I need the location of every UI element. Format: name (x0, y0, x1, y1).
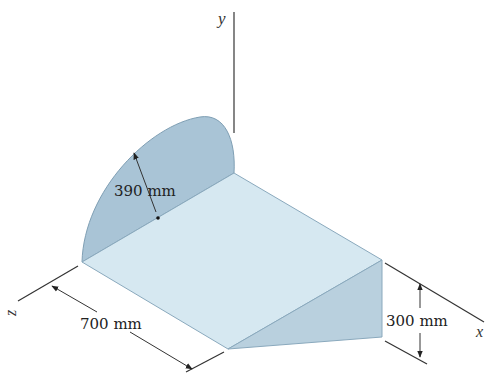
length-arrow-upper (52, 286, 97, 312)
height-label: 300 mm (386, 312, 448, 330)
radius-label: 390 mm (114, 182, 176, 200)
length-arrow-lower (130, 332, 192, 369)
center-point (156, 216, 160, 220)
length-label: 700 mm (80, 315, 142, 333)
y-axis-label: y (216, 9, 226, 28)
x-axis-label: x (475, 323, 483, 340)
composite-body-figure: 390 mm z 700 mm 300 mm x y (0, 0, 496, 389)
z-axis-label: z (2, 309, 19, 317)
bottom-extension-line (385, 341, 427, 364)
diagram: 390 mm z 700 mm 300 mm x y (0, 0, 496, 389)
